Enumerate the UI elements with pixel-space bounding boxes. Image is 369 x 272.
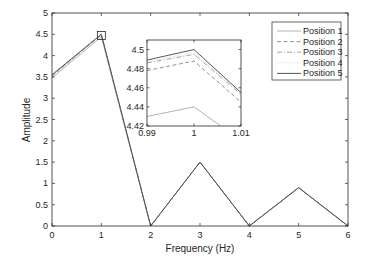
inset-zoom-plot: 0.9911.01 4.424.444.464.484.5 xyxy=(126,40,249,140)
inset-y-tick-label: 4.5 xyxy=(131,45,144,55)
inset-y-tick-label: 4.48 xyxy=(126,64,144,74)
y-tick-label: 4.5 xyxy=(35,29,48,39)
legend-label: Position 1 xyxy=(303,26,343,36)
inset-y-tick-label: 4.42 xyxy=(126,121,144,131)
y-tick-label: 1 xyxy=(43,178,48,188)
x-tick-label: 0 xyxy=(49,230,54,240)
inset-y-tick-label: 4.44 xyxy=(126,102,144,112)
x-tick-label: 2 xyxy=(148,230,153,240)
legend-label: Position 4 xyxy=(303,58,343,68)
legend-label: Position 5 xyxy=(303,68,343,78)
y-tick-label: 2.5 xyxy=(35,115,48,125)
y-tick-label: 4 xyxy=(43,51,48,61)
y-tick-label: 1.5 xyxy=(35,157,48,167)
inset-y-tick-label: 4.46 xyxy=(126,83,144,93)
y-tick-label: 0 xyxy=(43,221,48,231)
amplitude-frequency-chart: 0123456 00.511.522.533.544.55 Frequency … xyxy=(0,0,369,272)
x-tick-label: 5 xyxy=(296,230,301,240)
y-tick-label: 5 xyxy=(43,8,48,18)
legend: Position 1Position 2Position 3Position 4… xyxy=(272,22,343,80)
inset-x-tick-label: 1 xyxy=(191,128,196,138)
x-tick-label: 1 xyxy=(99,230,104,240)
legend-label: Position 2 xyxy=(303,37,343,47)
x-tick-label: 6 xyxy=(345,230,350,240)
inset-x-tick-label: 1.01 xyxy=(232,128,250,138)
y-tick-label: 2 xyxy=(43,136,48,146)
y-tick-label: 0.5 xyxy=(35,200,48,210)
y-axis-label: Amplitude xyxy=(21,97,32,142)
x-tick-label: 3 xyxy=(197,230,202,240)
x-axis-label: Frequency (Hz) xyxy=(166,243,235,254)
y-tick-label: 3.5 xyxy=(35,72,48,82)
legend-label: Position 3 xyxy=(303,47,343,57)
y-tick-label: 3 xyxy=(43,93,48,103)
x-tick-label: 4 xyxy=(247,230,252,240)
